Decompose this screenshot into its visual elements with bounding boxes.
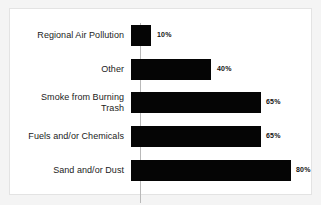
bar-value-label: 40% [217,65,232,72]
bar-value-label: 10% [157,31,172,38]
bar [131,59,211,80]
category-label-line1: Smoke from Burning [0,92,124,103]
bar-value-label: 80% [296,166,311,173]
category-label: Fuels and/or Chemicals [0,131,124,142]
category-label: Sand and/or Dust [0,165,124,176]
table-row: Smoke from Burning Trash 65% [0,92,321,113]
bar-value-label: 65% [266,132,281,139]
bar [131,160,291,181]
category-label-line2: Trash [0,103,124,114]
bar [131,92,261,113]
bar [131,126,261,147]
table-row: Regional Air Pollution 10% [0,25,321,46]
bar-value-label: 65% [266,98,281,105]
table-row: Sand and/or Dust 80% [0,160,321,181]
table-row: Fuels and/or Chemicals 65% [0,126,321,147]
category-label: Other [0,64,124,75]
category-label: Regional Air Pollution [0,30,124,41]
category-label: Smoke from Burning Trash [0,92,124,113]
bar [131,25,151,46]
bar-chart-figure: Regional Air Pollution 10% Other 40% Smo… [0,0,321,205]
table-row: Other 40% [0,59,321,80]
